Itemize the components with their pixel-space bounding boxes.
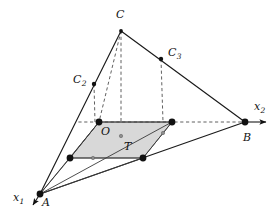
label-T: T (124, 141, 131, 152)
vertex-dot-P2 (140, 155, 147, 162)
label-C2: C2 (73, 74, 86, 85)
vertex-dot-C2 (92, 82, 96, 86)
geometry-figure: C C2 C3 O T B A x2 x1 (0, 0, 280, 223)
label-axis-x2: x2 (254, 101, 265, 112)
label-C: C (116, 9, 124, 20)
marker-dot-bottom (91, 156, 94, 159)
label-C3: C3 (168, 47, 181, 58)
label-B: B (243, 132, 251, 143)
dashed-drop-C3 (161, 59, 163, 122)
label-A: A (42, 197, 50, 208)
vertex-dot-P3 (169, 119, 176, 126)
vertex-dot-C (119, 29, 123, 33)
figure-canvas (0, 0, 280, 223)
dashed-drop-C2 (94, 84, 95, 122)
vertex-dot-B (242, 119, 249, 126)
marker-dot-right (161, 131, 164, 134)
label-O: O (101, 126, 110, 137)
vertex-dot-C3 (159, 57, 163, 61)
vertex-dot-P1 (67, 155, 74, 162)
dashed-C-to-O (99, 31, 121, 122)
marker-dot-center (119, 134, 122, 137)
edge-C-to-B (121, 31, 245, 122)
label-axis-x1: x1 (13, 192, 24, 203)
